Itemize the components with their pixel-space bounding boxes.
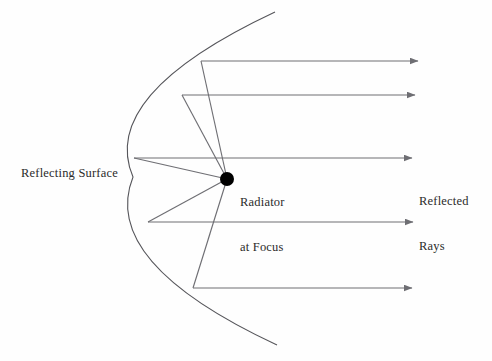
radiator-label-line2: at Focus: [240, 240, 285, 255]
radiator-focus-label: Radiator at Focus: [240, 165, 285, 285]
incident-ray-3: [134, 158, 227, 179]
incident-ray-2: [182, 95, 227, 179]
reflected-label-line1: Reflected: [419, 194, 469, 209]
radiator-focus-point: [220, 172, 234, 186]
parabolic-reflector-diagram: Reflecting Surface Radiator at Focus Ref…: [0, 0, 492, 361]
incident-ray-1: [201, 61, 227, 179]
reflecting-surface-label: Reflecting Surface: [21, 166, 118, 181]
radiator-label-line1: Radiator: [240, 195, 285, 210]
reflected-rays-label: Reflected Rays: [419, 164, 469, 284]
reflected-label-line2: Rays: [419, 239, 469, 254]
